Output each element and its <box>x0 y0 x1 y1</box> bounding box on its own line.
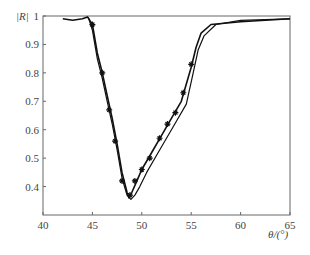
x-tick-label: 40 <box>38 219 50 231</box>
data-series <box>63 17 290 200</box>
y-tick-label: 0.7 <box>25 95 39 107</box>
x-tick-label: 55 <box>186 219 198 231</box>
axis-tick-labels: 4045505560650.40.50.60.70.80.91 <box>25 10 296 231</box>
reflectance-chart: 4045505560650.40.50.60.70.80.91 |R| θ/(°… <box>0 0 310 255</box>
plot-frame <box>43 16 290 215</box>
x-axis-label: θ/(°) <box>268 228 289 241</box>
series-line-1 <box>63 17 290 198</box>
x-tick-label: 45 <box>87 219 99 231</box>
x-tick-label: 50 <box>136 219 148 231</box>
y-tick-label: 0.9 <box>25 38 39 50</box>
y-tick-label: 0.5 <box>25 152 39 164</box>
star-marker-icon <box>188 61 194 67</box>
star-marker-icon <box>180 90 186 96</box>
series-line-2 <box>88 17 290 199</box>
y-tick-label: 0.6 <box>25 124 39 136</box>
y-tick-label: 0.8 <box>25 67 39 79</box>
axis-ticks <box>43 16 290 215</box>
y-axis-label: |R| <box>16 10 29 22</box>
y-tick-label: 0.4 <box>25 181 39 193</box>
x-tick-label: 60 <box>235 219 247 231</box>
y-tick-label: 1 <box>34 10 40 22</box>
